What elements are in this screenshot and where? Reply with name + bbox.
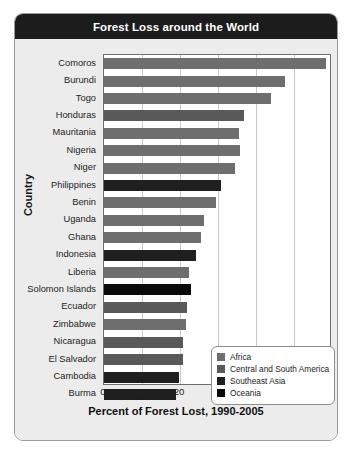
- chart-legend: AfricaCentral and South AmericaSoutheast…: [211, 346, 335, 405]
- y-axis-tick-label: Solomon Islands: [15, 280, 100, 297]
- bar: [104, 93, 271, 104]
- legend-item: Oceania: [217, 388, 329, 400]
- bar: [104, 58, 326, 69]
- bar-row: [104, 125, 330, 142]
- legend-label: Central and South America: [230, 364, 329, 374]
- y-axis-tick-label: Burma: [15, 385, 100, 402]
- y-axis-tick-label: Comoros: [15, 54, 100, 71]
- page-title: Forest Loss around the World: [93, 21, 259, 33]
- bar: [104, 145, 240, 156]
- bar: [104, 302, 187, 313]
- bar-row: [104, 212, 330, 229]
- bar-row: [104, 281, 330, 298]
- chart-area: Country ComorosBurundiTogoHondurasMaurit…: [15, 39, 337, 441]
- bar-row: [104, 229, 330, 246]
- bar-row: [104, 264, 330, 281]
- legend-swatch-icon: [217, 353, 225, 361]
- y-axis-tick-label: Philippines: [15, 176, 100, 193]
- y-axis-tick-label: Mauritania: [15, 124, 100, 141]
- x-axis-title: Percent of Forest Lost, 1990-2005: [15, 405, 337, 417]
- legend-label: Southeast Asia: [230, 376, 285, 386]
- bar-row: [104, 246, 330, 263]
- chart-figure: Forest Loss around the World Country Com…: [14, 13, 338, 441]
- bar: [104, 267, 189, 278]
- bar-row: [104, 177, 330, 194]
- chart-title-bar: Forest Loss around the World: [15, 14, 337, 39]
- bar-row: [104, 299, 330, 316]
- bar: [104, 128, 239, 139]
- y-axis-tick-label: Uganda: [15, 211, 100, 228]
- bar: [104, 197, 216, 208]
- x-axis-tick-label: 10: [136, 386, 147, 397]
- bar-series: [104, 55, 330, 384]
- legend-label: Oceania: [230, 388, 261, 398]
- bar: [104, 215, 204, 226]
- legend-item: Africa: [217, 352, 329, 364]
- bar: [104, 180, 221, 191]
- bar: [104, 284, 191, 295]
- bar: [104, 232, 201, 243]
- bar: [104, 250, 196, 261]
- y-axis-tick-label: Niger: [15, 158, 100, 175]
- legend-swatch-icon: [217, 377, 225, 385]
- legend-label: Africa: [230, 352, 251, 362]
- bar-row: [104, 159, 330, 176]
- bar-row: [104, 72, 330, 89]
- bar: [104, 163, 235, 174]
- y-axis-tick-label: Cambodia: [15, 367, 100, 384]
- legend-swatch-icon: [217, 389, 225, 397]
- y-axis-tick-label: Togo: [15, 89, 100, 106]
- bar: [104, 319, 186, 330]
- bar: [104, 372, 179, 383]
- y-axis-tick-label: Ghana: [15, 228, 100, 245]
- y-axis-tick-label: Nicaragua: [15, 333, 100, 350]
- bar: [104, 337, 183, 348]
- y-axis-tick-label: Zimbabwe: [15, 315, 100, 332]
- legend-swatch-icon: [217, 365, 225, 373]
- bar-row: [104, 316, 330, 333]
- x-axis-tick-label: 20: [174, 386, 185, 397]
- bar-row: [104, 194, 330, 211]
- y-axis-tick-label: Indonesia: [15, 245, 100, 262]
- x-axis-tick-label: 0: [100, 386, 105, 397]
- bar: [104, 110, 244, 121]
- y-axis-tick-label: Liberia: [15, 263, 100, 280]
- bar-row: [104, 90, 330, 107]
- bar-row: [104, 55, 330, 72]
- y-axis-tick-label: Burundi: [15, 71, 100, 88]
- bar: [104, 76, 285, 87]
- bar: [104, 354, 183, 365]
- legend-item: Southeast Asia: [217, 376, 329, 388]
- y-axis-tick-label: Benin: [15, 193, 100, 210]
- y-axis-tick-labels: ComorosBurundiTogoHondurasMauritaniaNige…: [15, 54, 100, 385]
- y-axis-tick-label: Honduras: [15, 106, 100, 123]
- bar-row: [104, 142, 330, 159]
- bar-row: [104, 107, 330, 124]
- y-axis-tick-label: Nigeria: [15, 141, 100, 158]
- y-axis-tick-label: El Salvador: [15, 350, 100, 367]
- plot-box: [103, 54, 331, 385]
- legend-item: Central and South America: [217, 364, 329, 376]
- y-axis-tick-label: Ecuador: [15, 298, 100, 315]
